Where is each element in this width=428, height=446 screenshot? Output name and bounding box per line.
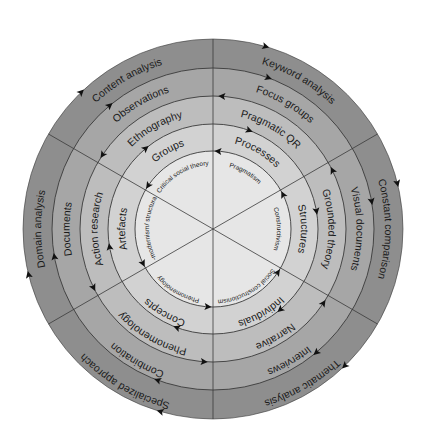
methodology-wheel-diagram: Content analysisObservationsEthnographyG… <box>0 0 428 446</box>
